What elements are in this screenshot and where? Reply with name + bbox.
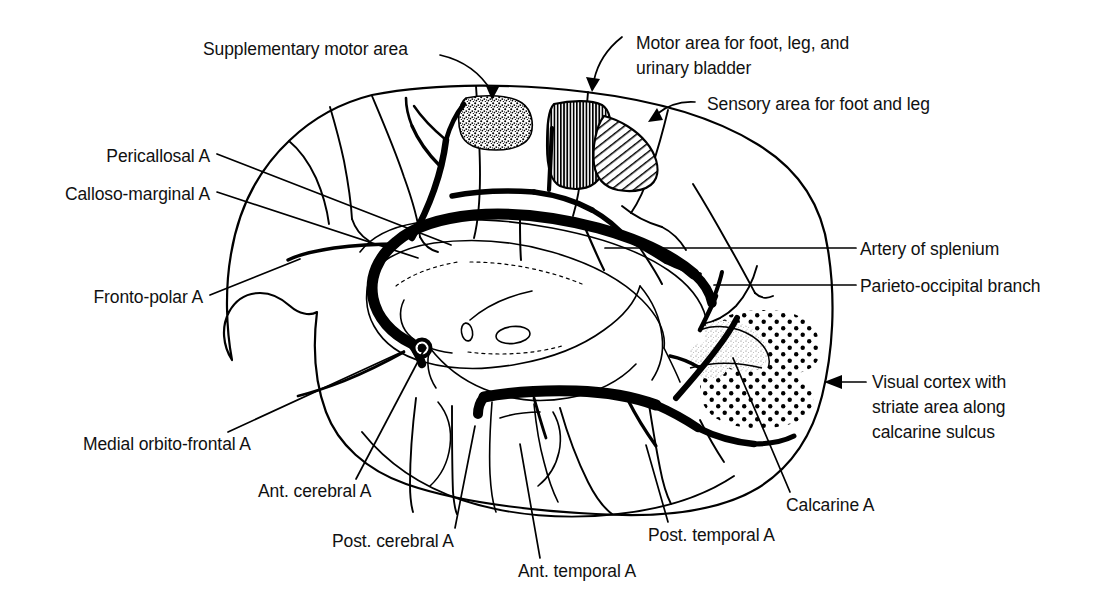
sensory-area-region [593, 116, 657, 191]
leader-pericallosal-a [217, 154, 451, 245]
label-visual-cortex-line3: calcarine sulcus [872, 421, 995, 443]
label-supplementary-motor-area: Supplementary motor area [203, 38, 408, 60]
label-artery-of-splenium: Artery of splenium [860, 238, 999, 260]
leader-ant-temporal-a [520, 444, 540, 558]
label-motor-area-line1: Motor area for foot, leg, and [636, 32, 849, 54]
label-calcarine-a: Calcarine A [786, 494, 874, 516]
label-motor-area-line2: urinary bladder [636, 57, 751, 79]
corpus-callosum-and-deep-structures [360, 220, 706, 512]
leader-motor-area [594, 37, 622, 80]
label-visual-cortex-line1: Visual cortex with [872, 371, 1006, 393]
label-medial-orbito-frontal-a: Medial orbito-frontal A [83, 433, 251, 455]
label-pericallosal-a: Pericallosal A [0, 145, 210, 167]
leader-sensory-area [657, 102, 695, 114]
label-parieto-occipital-branch: Parieto-occipital branch [860, 275, 1040, 297]
leader-post-cerebral-a [455, 426, 475, 528]
label-sensory-area: Sensory area for foot and leg [707, 93, 930, 115]
label-post-temporal-a: Post. temporal A [648, 524, 775, 546]
label-visual-cortex-line2: striate area along [872, 396, 1005, 418]
label-post-cerebral-a: Post. cerebral A [332, 530, 454, 552]
label-calloso-marginal-a: Calloso-marginal A [0, 183, 210, 205]
label-fronto-polar-a: Fronto-polar A [0, 286, 203, 308]
label-ant-temporal-a: Ant. temporal A [518, 560, 636, 582]
leader-fronto-polar-a [210, 259, 300, 295]
leader-calloso-marginal-a [217, 192, 418, 258]
label-ant-cerebral-a: Ant. cerebral A [258, 480, 371, 502]
figure-page: Supplementary motor area Motor area for … [0, 0, 1102, 614]
supplementary-motor-area-region [459, 96, 533, 150]
